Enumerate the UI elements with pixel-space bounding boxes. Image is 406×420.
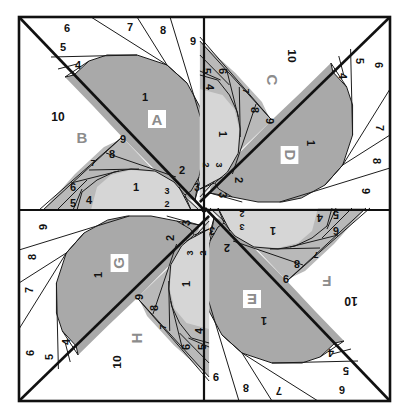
piece-label-g2: 2 (164, 235, 176, 241)
quadrant-top-left: 1 2 3 4 5 6 7 8 9 1 2 3 4 5 6 7 8 9 10 A… (19, 17, 204, 210)
svg-text:G: G (112, 257, 128, 269)
piece-label-b10: 10 (51, 110, 65, 124)
unit-label-E: E (243, 290, 261, 308)
piece-label-c9: 9 (264, 118, 276, 124)
piece-label-h1: 1 (180, 281, 192, 287)
piece-label-e7: 7 (276, 385, 282, 397)
piece-label-d7: 7 (374, 125, 386, 131)
quadrant-bottom-right: 1 2 3 4 5 6 7 8 9 1 2 3 4 5 6 7 8 9 10 E… (205, 208, 390, 401)
piece-label-b6: 6 (70, 181, 76, 193)
unit-label-F: F (322, 273, 331, 290)
piece-label-a4: 4 (75, 59, 82, 71)
piece-label-c10: 10 (285, 49, 299, 63)
piece-label-h9: 9 (133, 294, 145, 300)
piece-label-h8: 8 (148, 305, 160, 311)
piece-label-e4: 4 (327, 347, 334, 359)
piece-label-g9: 9 (37, 224, 49, 230)
piece-label-c4: 4 (204, 84, 216, 90)
piece-label-g8: 8 (26, 254, 38, 260)
piece-label-h5: 5 (196, 344, 208, 350)
quadrant-top-right: 1 2 3 4 5 6 7 8 9 1 2 3 4 5 6 7 8 9 10 D… (200, 17, 390, 202)
piece-label-a5: 5 (60, 41, 66, 53)
piece-label-a7: 7 (127, 21, 133, 33)
piece-label-g5: 5 (43, 354, 55, 360)
piece-label-c8: 8 (249, 107, 261, 113)
unit-label-H: H (129, 333, 145, 344)
piece-label-f7: 7 (313, 250, 318, 260)
piece-label-d8: 8 (371, 158, 383, 164)
piece-label-g3: 3 (180, 220, 192, 226)
piece-label-f6: 6 (333, 225, 339, 237)
piece-label-e9: 9 (213, 371, 219, 383)
quilt-pattern-diagram: 1 2 3 4 5 6 7 8 9 1 2 3 4 5 6 7 8 9 10 A… (0, 0, 406, 420)
piece-label-d3: 3 (217, 192, 229, 198)
piece-label-e3: 3 (209, 225, 215, 237)
piece-label-c7: 7 (241, 88, 251, 93)
piece-label-c6: 6 (217, 68, 229, 74)
piece-label-e8: 8 (243, 382, 249, 394)
piece-label-b3: 3 (164, 186, 169, 196)
piece-label-d2: 2 (233, 177, 245, 183)
piece-label-b5: 5 (70, 197, 76, 209)
piece-label-a9: 9 (190, 35, 196, 47)
unit-label-G: G (111, 254, 129, 272)
piece-label-d6: 6 (373, 62, 385, 68)
piece-label-a8: 8 (160, 24, 166, 36)
piece-label-e6: 6 (339, 384, 345, 396)
piece-label-f10: 10 (344, 294, 358, 308)
piece-label-g1: 1 (92, 272, 104, 278)
piece-label-g6: 6 (24, 350, 36, 356)
piece-label-b8: 8 (109, 148, 115, 160)
piece-label-c2: 2 (201, 162, 211, 167)
piece-label-h3: 3 (185, 250, 195, 255)
unit-label-B: B (77, 129, 88, 146)
quadrant-bottom-left: 1 2 3 4 5 6 7 8 9 1 2 3 4 5 6 7 8 9 10 G… (19, 216, 209, 401)
piece-label-a2: 2 (179, 164, 185, 176)
svg-text:D: D (282, 150, 298, 161)
unit-label-D: D (281, 146, 299, 164)
piece-label-b4: 4 (86, 194, 93, 206)
piece-label-a1: 1 (142, 91, 148, 103)
piece-label-d4: 4 (337, 73, 349, 79)
piece-label-f9: 9 (283, 273, 289, 285)
piece-label-h7: 7 (158, 324, 168, 329)
piece-label-b7: 7 (90, 158, 95, 168)
piece-label-h6: 6 (180, 344, 192, 350)
piece-label-f3: 3 (239, 222, 244, 232)
piece-label-f1: 1 (270, 225, 276, 237)
svg-text:E: E (247, 291, 257, 308)
piece-label-f8: 8 (294, 258, 300, 270)
piece-label-h10: 10 (111, 355, 125, 369)
piece-label-a3: 3 (194, 181, 200, 193)
piece-label-b1: 1 (133, 181, 139, 193)
piece-label-b9: 9 (120, 133, 126, 145)
piece-label-d9: 9 (360, 188, 372, 194)
piece-label-a6: 6 (64, 22, 70, 34)
piece-label-c3: 3 (214, 162, 224, 167)
unit-label-A: A (148, 110, 166, 128)
piece-label-e2: 2 (224, 242, 230, 254)
piece-label-e1: 1 (261, 315, 267, 327)
unit-label-C: C (264, 75, 280, 86)
svg-text:A: A (152, 111, 163, 128)
piece-label-c5: 5 (201, 68, 213, 74)
piece-label-g7: 7 (23, 287, 35, 293)
piece-label-c1: 1 (217, 131, 229, 137)
piece-label-f4: 4 (316, 212, 323, 224)
piece-label-d1: 1 (305, 140, 317, 146)
piece-label-b2: 2 (164, 199, 169, 209)
piece-label-d5: 5 (354, 58, 366, 64)
piece-label-e5: 5 (343, 365, 349, 377)
piece-label-g4: 4 (60, 339, 72, 345)
